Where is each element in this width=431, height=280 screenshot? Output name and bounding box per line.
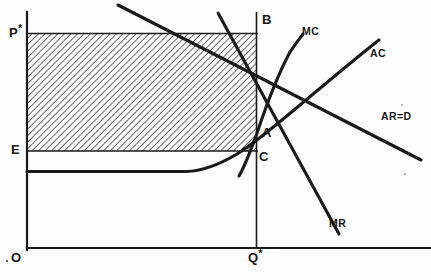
diagram-canvas: [0, 0, 431, 280]
curve-label-ac: AC: [370, 48, 386, 59]
supernormal-profit-shaded-rect: [28, 34, 256, 151]
point-label-c: C: [259, 150, 269, 163]
curve-label-mc: MC: [302, 26, 319, 37]
curve-label-ar-d: AR=D: [381, 111, 411, 122]
economics-diagram-figure: P* E Q* O B A C MC AC AR=D MR: [0, 0, 431, 280]
curve-label-mr: MR: [329, 218, 346, 229]
point-label-a: A: [262, 126, 272, 139]
cost-E-axis-label: E: [11, 143, 20, 156]
quantity-star-glyph: *: [258, 247, 262, 259]
origin-marker-dot: [6, 260, 8, 262]
quantity-star-axis-label: Q*: [248, 251, 263, 264]
scan-speck: [401, 104, 403, 106]
price-star-glyph: *: [18, 22, 22, 34]
price-star-axis-label: P*: [9, 26, 22, 39]
scan-speck: [404, 173, 406, 175]
origin-axis-label: O: [11, 251, 21, 264]
point-label-b: B: [262, 13, 272, 26]
